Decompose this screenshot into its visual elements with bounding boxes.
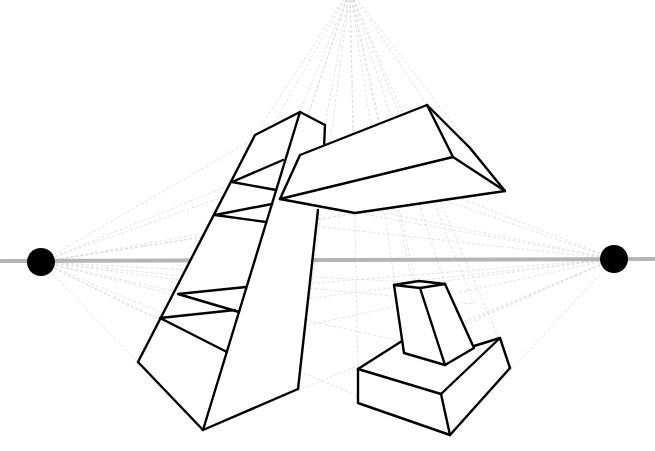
pedestal-block (358, 281, 510, 435)
left-vanishing-point (27, 248, 55, 276)
perspective-drawing (0, 0, 655, 451)
right-vanishing-point (600, 245, 628, 273)
horizon-line (0, 259, 655, 261)
